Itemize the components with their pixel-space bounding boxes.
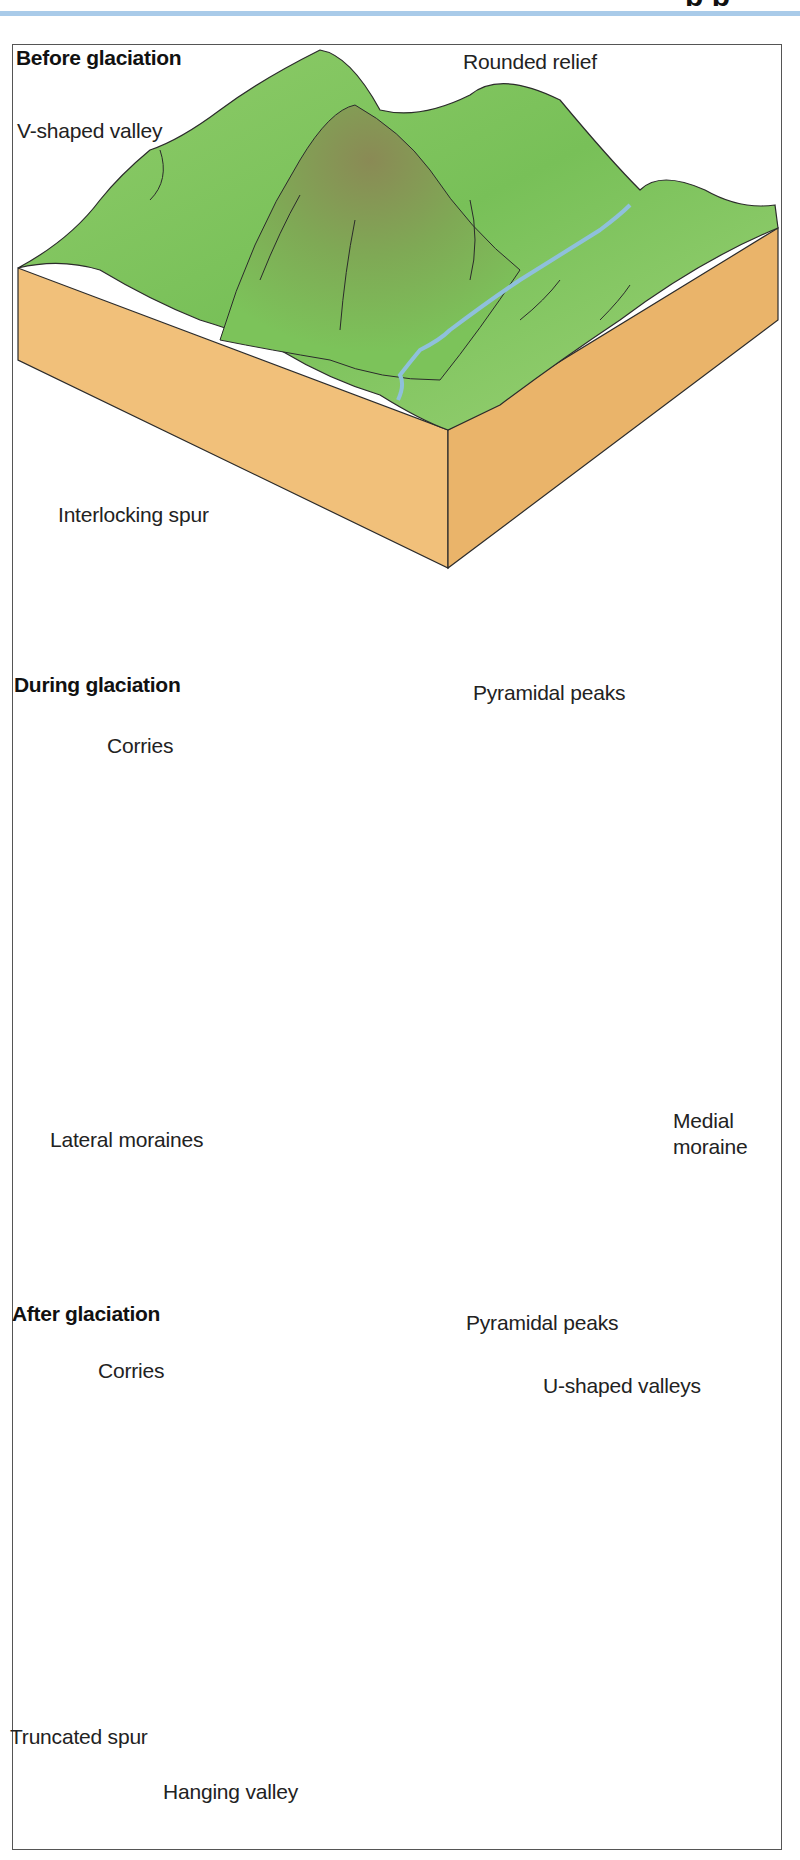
label-interlocking-spur: Interlocking spur xyxy=(58,502,209,528)
panel-title-during: During glaciation xyxy=(14,673,180,697)
glaciation-diagram xyxy=(0,0,800,1860)
label-u-shaped-valleys: U-shaped valleys xyxy=(543,1373,701,1399)
label-corries-during: Corries xyxy=(107,733,173,759)
label-truncated-spur: Truncated spur xyxy=(10,1724,148,1750)
label-pyramidal-peaks-after: Pyramidal peaks xyxy=(466,1310,618,1336)
label-hanging-valley: Hanging valley xyxy=(163,1779,298,1805)
label-v-shaped-valley: V-shaped valley xyxy=(17,118,162,144)
label-medial-moraine: Medial moraine xyxy=(673,1108,763,1160)
label-corries-after: Corries xyxy=(98,1358,164,1384)
label-lateral-moraines: Lateral moraines xyxy=(50,1127,203,1153)
label-pyramidal-peaks-during: Pyramidal peaks xyxy=(473,680,625,706)
label-rounded-relief: Rounded relief xyxy=(463,49,597,75)
panel-title-before: Before glaciation xyxy=(16,46,181,70)
panel-title-after: After glaciation xyxy=(12,1302,160,1326)
